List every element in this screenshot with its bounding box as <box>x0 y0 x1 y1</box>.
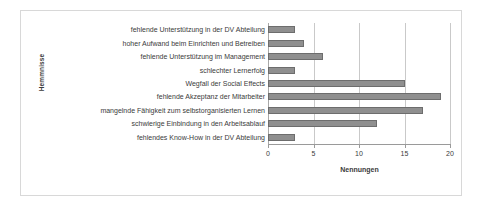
x-axis-tick-mark <box>359 144 360 148</box>
bar <box>268 120 377 127</box>
bar-row <box>268 90 450 103</box>
bar <box>268 53 323 60</box>
y-axis-tick-label: mangelnde Fähigkeit zum selbstorganisier… <box>49 104 269 117</box>
y-axis-tick-label: fehlendes Know-How in der DV Abteilung <box>49 131 269 144</box>
chart-figure: Hemmnisse fehlende Unterstützung in der … <box>20 10 462 196</box>
bar <box>268 107 423 114</box>
bar-row <box>268 131 450 144</box>
x-axis-title: Nennungen <box>268 166 451 173</box>
y-axis-category-labels: fehlende Unterstützung in der DV Abteilu… <box>49 23 269 144</box>
bar-row <box>268 77 450 90</box>
gridline <box>450 23 451 144</box>
bar <box>268 134 295 141</box>
y-axis-tick-label: hoher Aufwand beim Einrichten und Betrei… <box>49 36 269 49</box>
y-axis-tick-label: fehlende Unterstützung im Management <box>49 50 269 63</box>
y-axis-tick-label: fehlende Unterstützung in der DV Abteilu… <box>49 23 269 36</box>
y-axis-tick-label: schlechter Lernerfolg <box>49 63 269 76</box>
x-axis-tick-mark <box>405 144 406 148</box>
bar <box>268 93 441 100</box>
bar-row <box>268 23 450 36</box>
bar-row <box>268 36 450 49</box>
bar-row <box>268 50 450 63</box>
y-axis-tick-label: schwierige Einbindung in den Arbeitsabla… <box>49 117 269 130</box>
x-axis-tick-label: 20 <box>438 150 462 157</box>
y-axis-tick-label: Wegfall der Social Effects <box>49 77 269 90</box>
x-axis-tick-label: 5 <box>302 150 326 157</box>
bar-row <box>268 63 450 76</box>
x-axis-tick-label: 15 <box>393 150 417 157</box>
x-axis-tick-label: 10 <box>347 150 371 157</box>
bar-row <box>268 117 450 130</box>
bar <box>268 67 295 74</box>
bar-row <box>268 104 450 117</box>
plot-area <box>268 23 450 144</box>
x-axis-tick-label: 0 <box>256 150 280 157</box>
y-axis-tick-label: fehlende Akzeptanz der Mitarbeiter <box>49 90 269 103</box>
x-axis-tick-mark <box>314 144 315 148</box>
x-axis-tick-mark <box>268 144 269 148</box>
bar <box>268 80 405 87</box>
y-axis-title: Hemmnisse <box>38 33 45 113</box>
bar <box>268 40 304 47</box>
bar-series <box>268 23 450 144</box>
x-axis-tick-mark <box>450 144 451 148</box>
bar <box>268 26 295 33</box>
